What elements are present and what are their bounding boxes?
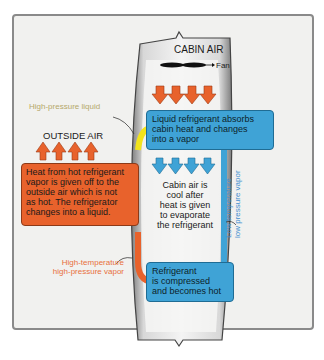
outside-air-label: OUTSIDE AIR: [43, 131, 103, 140]
condenser-line: Heat from hot refrigerant: [26, 167, 134, 177]
outside-air-up-arrows-icon: [36, 142, 98, 160]
low-temp-line: low pressure vapor: [233, 158, 242, 238]
condenser-line: as hot. The refrigerator: [26, 197, 134, 207]
cabin-cool-text: Cabin air is cool after heat is given to…: [152, 180, 218, 230]
low-temp-line: Low temperature: [224, 158, 233, 238]
condenser-line: vapor is given off to the: [26, 177, 134, 187]
cabin-cool-line: heat is given: [152, 200, 218, 210]
cabin-cool-line: Cabin air is: [152, 180, 218, 190]
condenser-line: outside air which is not: [26, 187, 134, 197]
high-temp-vapor-label: High-temperature high-pressure vapor: [34, 258, 124, 276]
evaporator-line: cabin heat and changes: [152, 124, 268, 134]
compressor-line: and becomes hot: [152, 286, 228, 296]
evaporator-info-box: Liquid refrigerant absorbs cabin heat an…: [146, 110, 274, 150]
evaporator-line: Liquid refrigerant absorbs: [152, 114, 268, 124]
evaporator-line: into a vapor: [152, 134, 268, 144]
condenser-line: changes into a liquid.: [26, 207, 134, 217]
fan-label: Fan: [216, 61, 230, 70]
high-temp-line: High-temperature: [34, 258, 124, 267]
compressor-info-box: Refrigerant is compressed and becomes ho…: [146, 262, 234, 302]
cabin-cool-line: to evaporate: [152, 210, 218, 220]
high-temp-line: high-pressure vapor: [34, 267, 124, 276]
cabin-air-label: CABIN AIR: [174, 45, 223, 54]
cabin-cool-line: the refrigerant: [152, 220, 218, 230]
condenser-info-box: Heat from hot refrigerant vapor is given…: [21, 163, 139, 226]
compressor-line: is compressed: [152, 276, 228, 286]
low-temp-vapor-label: Low temperature low pressure vapor: [224, 158, 242, 238]
cabin-cool-line: cool after: [152, 190, 218, 200]
high-pressure-liquid-label: High-pressure liquid: [29, 102, 100, 111]
compressor-line: Refrigerant: [152, 266, 228, 276]
